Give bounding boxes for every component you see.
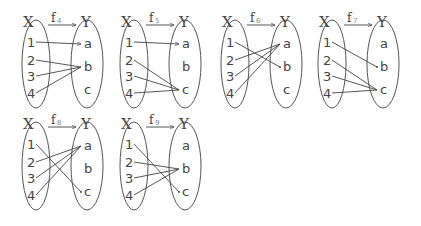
codomain-element: c	[182, 184, 189, 199]
domain-element: 1	[323, 35, 331, 50]
function-diagram-f4: XYf41234abc	[22, 11, 103, 108]
domain-element: 4	[27, 86, 35, 101]
codomain-element: c	[182, 82, 189, 97]
codomain-element: b	[283, 59, 291, 74]
domain-element: 2	[125, 155, 133, 170]
domain-element: 2	[323, 53, 331, 68]
mapping-arrow	[235, 44, 280, 76]
domain-label: X	[23, 13, 34, 31]
mapping-arrow	[332, 42, 377, 67]
codomain-element: b	[182, 59, 190, 74]
domain-element: 4	[27, 188, 35, 203]
domain-element: 4	[323, 86, 331, 101]
domain-element: 1	[125, 35, 133, 50]
codomain-element: a	[182, 138, 190, 153]
function-subscript: 7	[353, 17, 357, 25]
domain-element: 4	[125, 188, 133, 203]
codomain-element: c	[84, 82, 91, 97]
codomain-element: b	[380, 59, 388, 74]
mapping-arrow	[134, 60, 179, 90]
mapping-arrow	[134, 76, 179, 90]
codomain-label: Y	[178, 13, 190, 31]
function-diagram-f6: XYf61234abc	[221, 11, 302, 108]
codomain-label: Y	[178, 115, 190, 133]
domain-element: 1	[125, 137, 133, 152]
function-subscript: 6	[256, 17, 261, 25]
codomain-element: c	[380, 82, 387, 97]
function-diagram-f7: XYf71234abc	[318, 11, 399, 108]
codomain-element: a	[84, 138, 92, 153]
domain-element: 1	[27, 35, 35, 50]
domain-element: 4	[226, 86, 234, 101]
domain-label: X	[222, 13, 233, 31]
codomain-element: c	[84, 184, 91, 199]
domain-element: 2	[125, 53, 133, 68]
domain-element: 3	[226, 69, 234, 84]
mapping-arrow	[36, 67, 81, 76]
mapping-arrow	[332, 76, 377, 90]
mapping-arrow	[134, 42, 179, 44]
domain-element: 2	[226, 53, 234, 68]
function-subscript: 5	[155, 17, 159, 25]
mapping-arrow	[36, 146, 81, 195]
domain-element: 3	[125, 171, 133, 186]
codomain-element: a	[380, 36, 388, 51]
mapping-arrow	[332, 60, 377, 90]
function-diagram-f9: XYf91234abc	[120, 113, 201, 210]
mapping-arrow	[36, 42, 81, 44]
function-diagrams: XYf41234abcXYf51234abcXYf61234abcXYf7123…	[0, 0, 421, 226]
codomain-element: a	[84, 36, 92, 51]
mapping-arrow	[235, 44, 280, 93]
mapping-arrow	[36, 60, 81, 67]
domain-element: 3	[27, 171, 35, 186]
domain-element: 3	[125, 69, 133, 84]
function-subscript: 9	[155, 119, 159, 127]
domain-element: 2	[27, 53, 35, 68]
domain-label: X	[121, 115, 132, 133]
codomain-label: Y	[376, 13, 388, 31]
codomain-label: Y	[80, 115, 92, 133]
domain-label: X	[121, 13, 132, 31]
function-subscript: 4	[57, 17, 62, 25]
function-diagram-f8: XYf81234abc	[22, 113, 103, 210]
domain-element: 3	[323, 69, 331, 84]
codomain-label: Y	[279, 13, 291, 31]
mapping-arrow	[134, 169, 179, 178]
function-diagram-f5: XYf51234abc	[120, 11, 201, 108]
codomain-element: a	[182, 36, 190, 51]
codomain-element: b	[84, 161, 92, 176]
codomain-element: b	[84, 59, 92, 74]
codomain-label: Y	[80, 13, 92, 31]
domain-label: X	[23, 115, 34, 133]
domain-label: X	[319, 13, 330, 31]
domain-element: 3	[27, 69, 35, 84]
mapping-arrow	[235, 42, 280, 67]
codomain-element: a	[283, 36, 291, 51]
domain-element: 1	[226, 35, 234, 50]
domain-element: 2	[27, 155, 35, 170]
domain-element: 4	[125, 86, 133, 101]
codomain-element: c	[283, 82, 290, 97]
codomain-element: b	[182, 161, 190, 176]
function-subscript: 8	[57, 119, 61, 127]
domain-element: 1	[27, 137, 35, 152]
